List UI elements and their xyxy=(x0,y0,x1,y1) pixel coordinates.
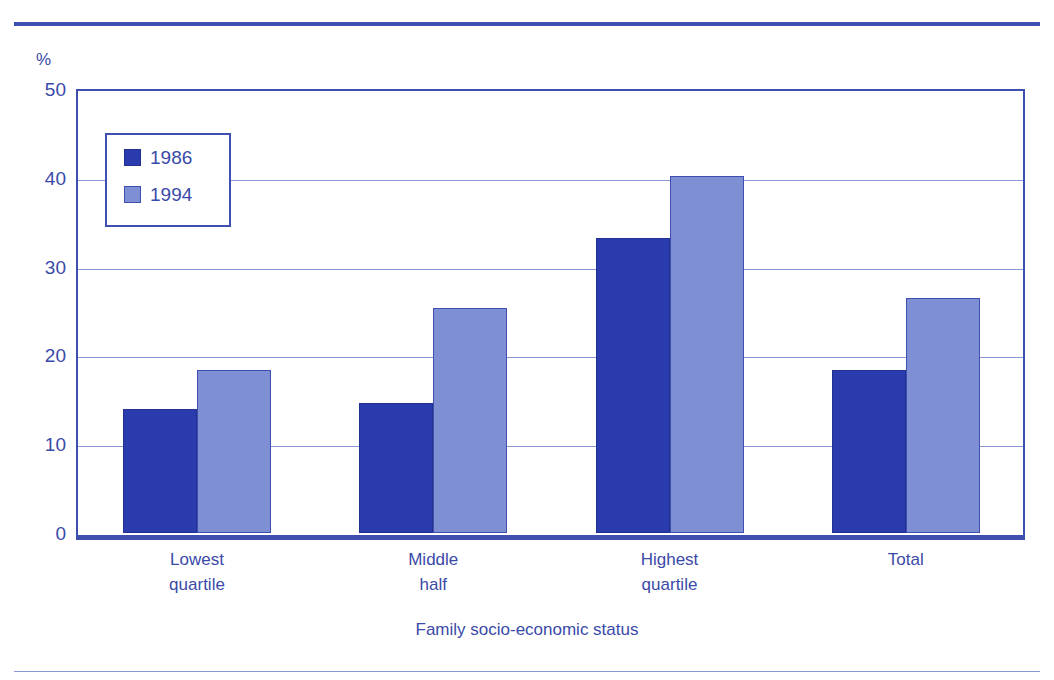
category-label-line: quartile xyxy=(551,573,787,598)
x-axis-title: Family socio-economic status xyxy=(0,620,1054,640)
legend-entry-1994: 1994 xyxy=(124,185,192,204)
legend-label-1994: 1994 xyxy=(150,185,192,204)
bottom-divider-rule xyxy=(14,671,1040,672)
bar-1986-middle-half xyxy=(359,403,433,533)
category-label-line: half xyxy=(315,573,551,598)
legend-swatch-1986-icon xyxy=(124,149,141,166)
bar-1986-highest-quartile xyxy=(596,238,670,533)
y-tick-label-0: 0 xyxy=(6,524,66,543)
top-divider-rule xyxy=(14,22,1040,26)
legend-label-1986: 1986 xyxy=(150,148,192,167)
y-tick-label-10: 10 xyxy=(6,435,66,454)
y-axis-unit-label: % xyxy=(36,50,51,70)
y-tick-label-30: 30 xyxy=(6,257,66,276)
bar-1994-highest-quartile xyxy=(670,176,744,533)
bar-1994-total xyxy=(906,298,980,533)
category-label-line: Total xyxy=(788,548,1024,573)
y-tick-label-20: 20 xyxy=(6,346,66,365)
bar-1986-lowest-quartile xyxy=(123,409,197,533)
category-label-middle-half: Middlehalf xyxy=(315,548,551,597)
chart-figure: % 50403020100 1986 1994 LowestquartileMi… xyxy=(0,0,1054,680)
y-tick-label-40: 40 xyxy=(6,168,66,187)
category-label-lowest-quartile: Lowestquartile xyxy=(79,548,315,597)
bar-1994-middle-half xyxy=(433,308,507,533)
category-label-line: quartile xyxy=(79,573,315,598)
y-axis-tick-labels: 50403020100 xyxy=(0,89,66,533)
category-label-highest-quartile: Highestquartile xyxy=(551,548,787,597)
category-label-total: Total xyxy=(788,548,1024,573)
y-tick-label-50: 50 xyxy=(6,80,66,99)
bar-1994-lowest-quartile xyxy=(197,370,271,533)
bar-1986-total xyxy=(832,370,906,533)
category-label-line: Lowest xyxy=(79,548,315,573)
legend-entry-1986: 1986 xyxy=(124,148,192,167)
legend-swatch-1994-icon xyxy=(124,186,141,203)
chart-legend: 1986 1994 xyxy=(105,133,231,227)
x-axis-category-labels: LowestquartileMiddlehalfHighestquartileT… xyxy=(76,548,1021,608)
category-label-line: Middle xyxy=(315,548,551,573)
category-label-line: Highest xyxy=(551,548,787,573)
